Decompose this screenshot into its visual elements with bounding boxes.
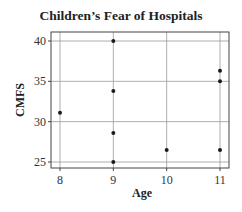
data-point bbox=[165, 148, 169, 152]
data-point bbox=[111, 131, 115, 135]
x-axis-label: Age bbox=[132, 186, 153, 200]
data-point bbox=[218, 148, 222, 152]
data-point bbox=[58, 111, 62, 115]
x-tick-label: 8 bbox=[57, 173, 63, 187]
gridlines bbox=[51, 32, 229, 168]
data-point bbox=[218, 69, 222, 73]
data-point bbox=[218, 79, 222, 83]
y-tick-label: 40 bbox=[34, 34, 46, 48]
plot-frame bbox=[51, 32, 229, 168]
x-tick-label: 9 bbox=[110, 173, 116, 187]
data-point bbox=[111, 39, 115, 43]
y-tick-label: 30 bbox=[34, 115, 46, 129]
axis-ticks: 89101125303540 bbox=[34, 34, 226, 187]
x-tick-label: 11 bbox=[214, 173, 226, 187]
y-tick-label: 35 bbox=[34, 74, 46, 88]
x-tick-label: 10 bbox=[161, 173, 173, 187]
data-point bbox=[111, 160, 115, 164]
y-tick-label: 25 bbox=[34, 155, 46, 169]
y-axis-label: CMFS bbox=[13, 83, 27, 117]
data-point bbox=[111, 89, 115, 93]
scatter-plot: 89101125303540 Age CMFS bbox=[0, 0, 242, 212]
data-points bbox=[58, 39, 222, 164]
